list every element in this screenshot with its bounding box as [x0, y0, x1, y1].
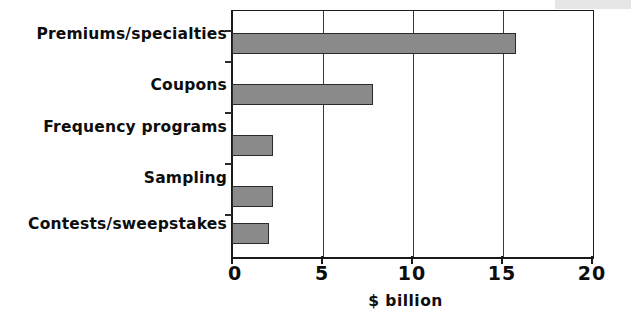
- x-tick-label-10: 10: [398, 264, 426, 283]
- bar-frequency-programs: [232, 135, 273, 156]
- bar-chart: Premiums/specialties Coupons Frequency p…: [0, 0, 631, 323]
- x-tick-label-20: 20: [578, 264, 606, 283]
- bar-coupons: [232, 84, 373, 105]
- category-label-contests-sweepstakes: Contests/sweepstakes: [28, 217, 227, 233]
- x-tick-label-5: 5: [315, 264, 329, 283]
- bar-contests-sweepstakes: [232, 223, 269, 244]
- x-axis-title-text: $ billion: [368, 294, 443, 310]
- category-label-frequency-programs: Frequency programs: [43, 120, 227, 136]
- plot-area: [231, 10, 594, 259]
- category-label-sampling: Sampling: [144, 171, 227, 187]
- bar-premiums-specialties: [232, 33, 516, 54]
- category-axis-labels: Premiums/specialties Coupons Frequency p…: [0, 0, 227, 323]
- x-axis-title: $ billion: [0, 294, 631, 310]
- bar-sampling: [232, 186, 273, 207]
- scan-artifact: [555, 0, 631, 9]
- x-tick-label-0: 0: [228, 264, 242, 283]
- x-tick-label-15: 15: [488, 264, 516, 283]
- category-label-premiums-specialties: Premiums/specialties: [36, 27, 227, 43]
- category-label-coupons: Coupons: [151, 78, 227, 94]
